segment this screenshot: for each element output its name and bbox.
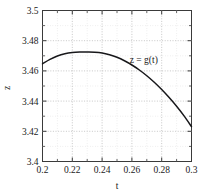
y-tick-label: 3.5 (27, 6, 39, 16)
x-tick-label: 0.26 (124, 165, 141, 175)
line-chart: 0.20.220.240.260.280.3 3.43.423.443.463.… (0, 0, 204, 193)
x-tick-label: 0.3 (186, 165, 198, 175)
figure-container: 0.20.220.240.260.280.3 3.43.423.443.463.… (0, 0, 204, 193)
y-axis-label: z (2, 86, 12, 90)
annotation-label: z = g(t) (130, 55, 158, 66)
y-tick-label: 3.42 (22, 127, 39, 137)
curve-annotation: z = g(t) (130, 55, 158, 66)
x-axis-label: t (116, 181, 119, 191)
y-tick-label: 3.44 (22, 97, 39, 107)
y-tick-label: 3.4 (27, 157, 39, 167)
y-tick-label: 3.48 (22, 36, 39, 46)
x-tick-label: 0.24 (94, 165, 111, 175)
x-tick-label: 0.28 (153, 165, 170, 175)
y-tick-label: 3.46 (22, 66, 39, 76)
x-tick-label: 0.22 (64, 165, 81, 175)
